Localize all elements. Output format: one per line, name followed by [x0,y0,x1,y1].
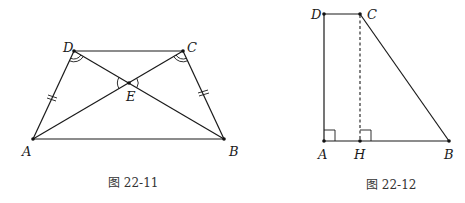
label-h: H [353,147,366,162]
point-b-2 [447,139,451,143]
label-a: A [21,144,31,159]
label-e: E [125,89,136,104]
label-a-2: A [317,147,327,162]
right-angle-mark-h [360,130,371,141]
equal-mark-bc [198,90,209,96]
caption-fig-22-12: 图 22-12 [366,178,416,192]
label-b-2: B [443,147,454,162]
label-b: B [228,144,239,159]
label-c-2: C [367,7,377,22]
geometry-figures: A B C D E 图 22-11 A B C D H 图 22-12 [0,0,465,203]
diagonal-ac [33,51,183,139]
label-d-2: D [310,7,322,22]
label-c: C [187,40,197,55]
figure-22-11: A B C D E 图 22-11 [21,40,239,190]
caption-fig-22-11: 图 22-11 [108,176,158,190]
point-a [31,137,35,141]
point-a-2 [322,139,326,143]
point-h [358,139,362,143]
segment-bc-2 [360,14,449,141]
point-c-2 [358,12,362,16]
right-angle-mark-a [324,130,335,141]
figure-22-12: A B C D H 图 22-12 [310,7,454,192]
point-e [127,81,131,85]
point-c [181,49,185,53]
label-d: D [62,40,74,55]
point-b [222,137,226,141]
point-d-2 [322,12,326,16]
segment-da [33,51,74,139]
